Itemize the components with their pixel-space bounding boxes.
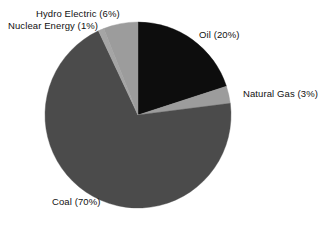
pie-chart-canvas — [0, 0, 325, 226]
pie-label-hydro-electric: Hydro Electric (6%) — [36, 8, 120, 19]
pie-label-oil: Oil (20%) — [199, 29, 240, 40]
pie-label-nuclear-energy: Nuclear Energy (1%) — [8, 20, 98, 31]
pie-label-coal: Coal (70%) — [52, 196, 101, 207]
pie-label-natural-gas: Natural Gas (3%) — [243, 88, 318, 99]
pie-chart-figure: Hydro Electric (6%) Nuclear Energy (1%) … — [0, 0, 325, 226]
pie-slices — [45, 22, 231, 208]
